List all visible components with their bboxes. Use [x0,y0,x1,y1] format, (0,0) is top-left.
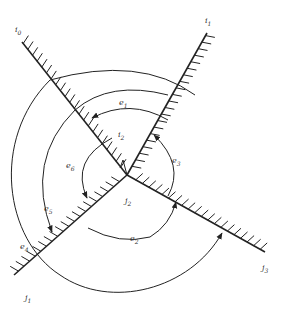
hatch-mark [169,101,178,103]
hatch-mark [175,195,182,201]
hatch-mark [60,83,65,91]
hatch-mark [202,42,211,44]
hatch-mark [16,261,24,266]
hatch-mark [182,199,189,205]
hatch-mark [50,232,58,237]
hatch-mark [188,203,195,209]
label-e2: e2 [130,235,139,245]
hatch-mark [107,142,112,150]
hatch-mark [234,228,241,234]
hatch-mark [79,106,84,114]
label-j2: j2 [125,197,131,207]
hatch-mark [46,65,51,73]
hatch-mark [132,166,141,168]
hatch-mark [201,210,208,216]
hatch-mark [100,187,108,192]
hatch-mark [241,232,248,238]
hatch-mark [154,127,163,129]
hatch-mark [61,222,69,227]
label-i0: i0 [15,26,21,36]
label-e5: e5 [44,205,53,215]
hatch-mark [88,118,93,126]
hatch-mark [247,236,254,242]
hatch-mark [191,62,200,64]
hatch-mark [254,239,261,245]
hatch-mark [183,75,192,77]
hatch-mark [195,206,202,212]
hatch-mark [150,134,159,136]
hatch-mark [136,160,145,162]
hatch-mark [44,237,52,242]
hatch-mark [93,124,98,132]
hatch-mark [65,89,70,97]
ray-i1 [127,33,207,175]
hatch-mark [83,202,91,207]
hatch-mark [143,147,152,149]
hatch-mark [208,214,215,220]
hatch-mark [221,221,228,227]
junction-diagram [0,0,281,311]
hatch-mark [66,217,74,222]
label-e6: e6 [66,162,75,172]
hatch-mark [227,225,234,231]
hatch-mark [94,192,102,197]
hatch-mark [165,107,174,109]
hatch-mark [136,173,143,179]
hatch-mark [147,140,156,142]
hatch-mark [111,177,119,182]
arcs [11,70,222,292]
label-e4: e4 [20,243,29,253]
hatch-mark [112,147,117,155]
label-e1: e1 [119,99,128,109]
arc-e1 [92,108,168,120]
hatch-mark [206,36,215,38]
ray-j1 [14,175,127,275]
hatch-mark [10,266,18,271]
hatch-mark [155,184,162,190]
hatch-mark [198,49,207,51]
hatch-mark [214,217,221,223]
hatch-mark [194,55,203,57]
hatch-mark [89,197,97,202]
hatch-mark [70,94,75,102]
hatch-mark [161,114,170,116]
hatch-mark [142,177,149,183]
label-e3: e3 [172,157,181,167]
arc-e6 [82,138,112,198]
hatch-mark [55,227,63,232]
hatch-mark [116,153,121,161]
label-j1: j1 [25,294,31,304]
hatch-mark [37,53,42,61]
hatch-mark [23,36,28,44]
hatch-mark [28,41,33,49]
hatch-mark [172,94,181,96]
hatch-mark [149,181,156,187]
hatch-mark [139,153,148,155]
label-i2: i2 [118,131,124,141]
hatch-mark [33,47,38,55]
hatch-mark [84,112,89,120]
hatch-mark [187,68,196,70]
hatch-mark [21,256,29,261]
hatch-mark [42,59,47,67]
hatch-mark [51,71,56,79]
hatch-mark [78,207,86,212]
label-i1: i1 [205,17,211,27]
hatch-mark [106,182,114,187]
hatch-mark [158,121,167,123]
hatch-mark [260,243,267,249]
hatch-mark [38,241,46,246]
hatch-mark [180,81,189,83]
hatch-mark [72,212,80,217]
ray-j3 [127,175,265,252]
hatch-mark [98,130,103,138]
label-j3: j3 [262,264,268,274]
hatch-mark [162,188,169,194]
